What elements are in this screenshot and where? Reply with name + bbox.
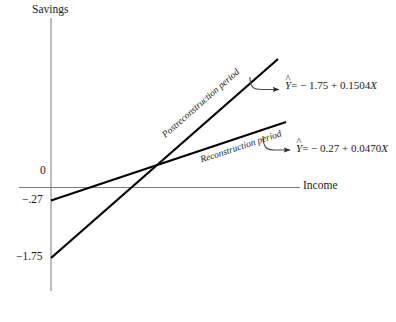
equation-postreconstruction: Y= − 1.75 + 0.1504X [285,79,377,91]
regression-chart: Savings Income 0 −.27 −1.75 Postreconstr… [0,0,396,322]
plus-sign-recon: + [342,142,348,154]
x-axis-label: Income [303,180,337,192]
minus-sign-post: − [300,79,306,91]
y-axis-label: Savings [32,4,68,16]
y-hat-symbol-post: Y [285,79,291,91]
plus-sign-post: + [331,79,337,91]
y-tick-label-neg-1-75: −1.75 [16,251,43,263]
x-variable-post: X [370,79,377,91]
x-variable-recon: X [381,142,388,154]
minus-sign-recon: − [311,142,317,154]
slope-value-recon: 0.0470 [351,142,381,154]
equals-sign-post: = [291,79,297,91]
equation-reconstruction: Y= − 0.27 + 0.0470X [296,142,388,154]
equals-sign-recon: = [302,142,308,154]
y-tick-label-0: 0 [40,165,46,177]
y-tick-label-neg-0-27: −.27 [22,194,43,206]
slope-value-post: 0.1504 [340,79,370,91]
regression-line-postreconstruction [51,59,278,258]
chart-canvas [0,0,396,322]
intercept-value-post: 1.75 [309,79,328,91]
y-hat-symbol-recon: Y [296,142,302,154]
intercept-value-recon: 0.27 [320,142,339,154]
